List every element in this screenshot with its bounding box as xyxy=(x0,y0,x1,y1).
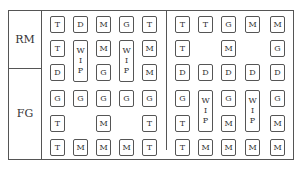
cell-m: M xyxy=(270,16,285,33)
cell-t: T xyxy=(50,40,65,57)
row-divider xyxy=(8,68,42,69)
row-label-fg: FG xyxy=(8,107,42,120)
cell-g: G xyxy=(96,90,111,107)
cell-m: M xyxy=(270,139,285,156)
cell-t: T xyxy=(142,139,157,156)
cell-g: G xyxy=(270,90,285,107)
cell-m: M xyxy=(96,16,111,33)
cell-m: M xyxy=(221,139,236,156)
cell-wip: WIP xyxy=(198,90,213,132)
cell-m: M xyxy=(245,139,260,156)
cell-d: D xyxy=(221,64,236,81)
cell-m: M xyxy=(142,40,157,57)
cell-g: G xyxy=(119,16,134,33)
cell-d: D xyxy=(270,64,285,81)
cell-m: M xyxy=(270,115,285,132)
cell-d: D xyxy=(50,64,65,81)
cell-m: M xyxy=(96,40,111,57)
cell-g: G xyxy=(221,16,236,33)
cell-m: M xyxy=(73,139,88,156)
cell-wip: WIP xyxy=(245,90,260,132)
cell-m: M xyxy=(96,115,111,132)
cell-t: T xyxy=(175,16,190,33)
cell-m: M xyxy=(245,16,260,33)
cell-wip: WIP xyxy=(119,40,134,82)
cell-d: D xyxy=(73,16,88,33)
cell-t: T xyxy=(175,139,190,156)
cell-g: G xyxy=(73,90,88,107)
cell-d: D xyxy=(245,64,260,81)
cell-m: M xyxy=(142,64,157,81)
cell-m: M xyxy=(198,139,213,156)
cell-t: T xyxy=(142,115,157,132)
cell-t: T xyxy=(198,16,213,33)
cell-t: T xyxy=(142,16,157,33)
cell-m: M xyxy=(221,115,236,132)
cell-m: M xyxy=(221,40,236,57)
cell-t: T xyxy=(175,115,190,132)
cell-g: G xyxy=(96,64,111,81)
cell-g: G xyxy=(221,90,236,107)
cell-g: G xyxy=(142,90,157,107)
cell-t: T xyxy=(50,139,65,156)
cell-d: D xyxy=(198,64,213,81)
cell-t: T xyxy=(50,115,65,132)
cell-t: T xyxy=(175,40,190,57)
row-label-rm: RM xyxy=(8,33,42,46)
cell-t: T xyxy=(50,16,65,33)
cell-wip: WIP xyxy=(73,40,88,82)
cell-g: G xyxy=(50,90,65,107)
cell-g: G xyxy=(175,90,190,107)
cell-g: G xyxy=(270,40,285,57)
cell-d: D xyxy=(175,64,190,81)
cell-g: G xyxy=(119,90,134,107)
center-divider xyxy=(166,10,167,150)
cell-m: M xyxy=(96,139,111,156)
cell-m: M xyxy=(119,139,134,156)
